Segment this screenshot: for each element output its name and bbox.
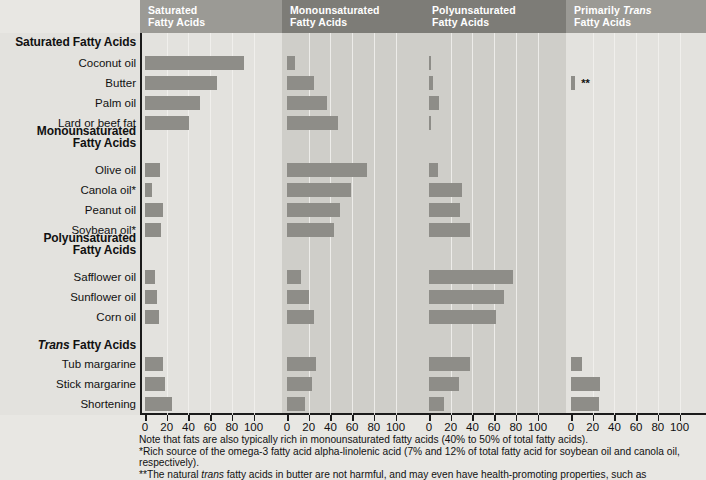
axis-tick-label: 100 xyxy=(670,421,689,434)
plot-panel-monounsaturated xyxy=(282,33,424,415)
bar xyxy=(145,377,165,391)
panel-header-line2: Fatty Acids xyxy=(148,17,282,29)
bar xyxy=(145,270,155,284)
bar xyxy=(429,397,444,411)
bar xyxy=(145,76,217,90)
panel-header-trans: Primarily Trans Fatty Acids xyxy=(566,0,706,33)
panel-header-monounsaturated: Monounsaturated Fatty Acids xyxy=(282,0,424,33)
bar xyxy=(429,377,459,391)
panel-header-line2: Fatty Acids xyxy=(432,17,566,29)
row-label: Safflower oil xyxy=(74,271,136,283)
row-label: Corn oil xyxy=(96,311,136,323)
bar xyxy=(145,290,157,304)
panel-header-band: Saturated Fatty Acids Monounsaturated Fa… xyxy=(0,0,706,33)
axis-tick-label: 80 xyxy=(367,421,380,434)
axis-tick-label: 60 xyxy=(204,421,217,434)
plot-panel-trans: ** xyxy=(566,33,706,415)
axis-tick-label: 100 xyxy=(244,421,263,434)
bar xyxy=(287,397,305,411)
axis-tick-label: 0 xyxy=(142,421,148,434)
bar xyxy=(287,270,301,284)
gridline xyxy=(396,33,397,415)
gridline xyxy=(210,33,211,415)
gridline xyxy=(254,33,255,415)
gridline xyxy=(167,33,168,415)
bar xyxy=(287,183,351,197)
italic-term: trans xyxy=(201,469,224,480)
row-label: Canola oil* xyxy=(80,184,136,196)
panel-header-polyunsaturated: Polyunsaturated Fatty Acids xyxy=(424,0,566,33)
row-label: Tub margarine xyxy=(62,358,136,370)
panel-header-line2: Fatty Acids xyxy=(290,17,424,29)
bar xyxy=(287,290,309,304)
row-label: Sunflower oil xyxy=(70,291,136,303)
bar xyxy=(287,76,314,90)
bar xyxy=(145,357,163,371)
bar xyxy=(145,310,159,324)
gridline xyxy=(188,33,189,415)
bar xyxy=(145,223,161,237)
bar xyxy=(571,76,575,90)
bar xyxy=(287,56,295,70)
panel-header-line1: Polyunsaturated xyxy=(432,4,516,16)
group-label: Trans Fatty Acids xyxy=(38,339,136,351)
axis-tick-label: 40 xyxy=(182,421,195,434)
footnote-single-asterisk: *Rich source of the omega-3 fatty acid a… xyxy=(139,446,699,469)
footnotes: Note that fats are also typically rich i… xyxy=(139,434,699,480)
axis-tick-label: 0 xyxy=(426,421,432,434)
bar xyxy=(571,377,600,391)
bar xyxy=(145,203,163,217)
bar xyxy=(287,96,327,110)
fat-composition-chart: Saturated Fatty Acids Monounsaturated Fa… xyxy=(0,0,706,480)
axis-tick-label: 20 xyxy=(160,421,173,434)
bar xyxy=(429,290,504,304)
bar xyxy=(429,203,460,217)
plot-panel-saturated xyxy=(140,33,282,415)
axis-tick-label: 0 xyxy=(284,421,290,434)
gridline xyxy=(636,33,637,415)
gridline xyxy=(352,33,353,415)
panel-header-line1: Monounsaturated xyxy=(290,4,380,16)
row-label: Butter xyxy=(105,77,136,89)
bar xyxy=(145,96,200,110)
group-label: Saturated Fatty Acids xyxy=(15,36,136,48)
bar xyxy=(429,270,513,284)
row-label: Coconut oil xyxy=(78,57,136,69)
row-label: Peanut oil xyxy=(85,204,136,216)
bar xyxy=(287,357,316,371)
axis-tick-label: 40 xyxy=(324,421,337,434)
row-label: Shortening xyxy=(80,398,136,410)
footnote-double-asterisk: **The natural trans fatty acids in butte… xyxy=(139,469,699,480)
bar xyxy=(145,397,172,411)
axis-tick-label: 20 xyxy=(444,421,457,434)
bar xyxy=(287,116,338,130)
group-label-line2: Fatty Acids xyxy=(37,137,136,149)
gridline xyxy=(658,33,659,415)
bar xyxy=(429,357,470,371)
axis-tick-label: 40 xyxy=(466,421,479,434)
axis-tick-label: 100 xyxy=(386,421,405,434)
bar xyxy=(287,310,314,324)
axis-tick-label: 0 xyxy=(568,421,574,434)
axis-tick-label: 80 xyxy=(651,421,664,434)
axis-tick-label: 40 xyxy=(608,421,621,434)
bar xyxy=(429,116,431,130)
axis-tick-label: 60 xyxy=(346,421,359,434)
axis-tick-label: 20 xyxy=(586,421,599,434)
bar xyxy=(287,223,334,237)
bar xyxy=(429,310,496,324)
bar xyxy=(145,183,152,197)
bar xyxy=(429,96,439,110)
row-label: Soybean oil* xyxy=(71,224,136,236)
panel-left-axis xyxy=(140,33,142,415)
bar xyxy=(287,377,312,391)
group-label-line2: Fatty Acids xyxy=(43,244,136,256)
gridline xyxy=(232,33,233,415)
panel-header-line1: Primarily Trans xyxy=(574,4,652,16)
butter-trans-footnote-marker: ** xyxy=(581,78,590,88)
row-label: Lard or beef fat xyxy=(58,117,136,129)
axis-tick-label: 80 xyxy=(509,421,522,434)
gridline xyxy=(614,33,615,415)
bar xyxy=(571,397,599,411)
bar xyxy=(429,56,431,70)
